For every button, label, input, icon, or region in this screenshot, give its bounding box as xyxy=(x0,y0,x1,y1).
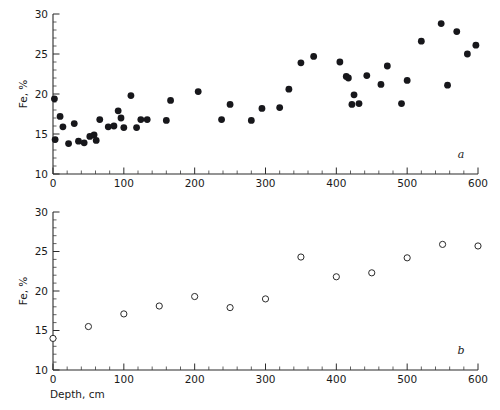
data-point xyxy=(133,124,140,131)
data-point xyxy=(137,116,144,123)
x-tick-label: 400 xyxy=(326,177,346,189)
y-tick-label: 10 xyxy=(35,168,48,180)
x-tick-label: 0 xyxy=(50,373,57,385)
scatter-plot-b: 01002003004005006001015202530Fe, %Depth,… xyxy=(0,196,500,406)
data-point xyxy=(93,137,100,144)
data-point xyxy=(298,59,305,66)
x-tick-label: 400 xyxy=(326,373,346,385)
data-point xyxy=(398,100,405,107)
data-point xyxy=(472,42,479,49)
data-point xyxy=(60,123,67,130)
data-point xyxy=(404,77,411,84)
y-tick-label: 20 xyxy=(35,88,48,100)
data-point xyxy=(453,28,460,35)
data-point xyxy=(120,124,127,131)
chart-panel-a: 01002003004005006001015202530Fe, %a xyxy=(0,0,500,200)
data-point xyxy=(378,81,385,88)
data-point xyxy=(115,107,122,114)
data-point xyxy=(195,88,202,95)
data-point xyxy=(310,53,317,60)
x-tick-label: 300 xyxy=(255,373,275,385)
data-point xyxy=(464,51,471,58)
x-tick-label: 500 xyxy=(397,177,417,189)
data-point xyxy=(345,75,352,82)
data-point xyxy=(351,91,358,98)
data-point xyxy=(444,82,451,89)
data-point xyxy=(118,115,125,122)
data-point xyxy=(71,120,78,127)
data-point xyxy=(298,254,304,260)
panel-label: b xyxy=(457,344,464,357)
x-tick-label: 600 xyxy=(468,177,488,189)
data-point xyxy=(65,140,72,147)
y-axis-title: Fe, % xyxy=(17,277,29,306)
x-axis-title: Depth, cm xyxy=(50,388,105,400)
scatter-plot-a: 01002003004005006001015202530Fe, %a xyxy=(0,0,500,200)
x-tick-label: 100 xyxy=(114,177,134,189)
y-tick-label: 25 xyxy=(35,245,48,257)
data-point xyxy=(52,136,59,143)
data-point xyxy=(248,117,255,124)
data-point xyxy=(50,335,56,341)
data-point xyxy=(121,311,127,317)
data-point xyxy=(276,104,283,111)
data-point xyxy=(81,139,88,146)
data-point xyxy=(369,270,375,276)
x-tick-label: 200 xyxy=(185,177,205,189)
chart-panel-b: 01002003004005006001015202530Fe, %Depth,… xyxy=(0,196,500,406)
y-tick-label: 10 xyxy=(35,364,48,376)
data-point xyxy=(404,255,410,261)
data-point xyxy=(333,274,339,280)
data-point xyxy=(349,101,356,108)
y-tick-label: 15 xyxy=(35,128,48,140)
data-point xyxy=(51,95,58,102)
y-tick-label: 15 xyxy=(35,324,48,336)
data-point xyxy=(167,97,174,104)
y-tick-label: 30 xyxy=(35,8,48,20)
figure-container: 01002003004005006001015202530Fe, %a 0100… xyxy=(0,0,500,410)
x-tick-label: 500 xyxy=(397,373,417,385)
data-point xyxy=(163,117,170,124)
data-point xyxy=(418,38,425,45)
data-point xyxy=(227,304,233,310)
y-tick-label: 25 xyxy=(35,48,48,60)
data-point xyxy=(192,293,198,299)
data-point xyxy=(57,113,64,120)
data-point xyxy=(438,20,445,27)
data-point xyxy=(259,105,266,112)
data-point xyxy=(356,100,363,107)
data-point xyxy=(128,92,135,99)
data-point xyxy=(227,101,234,108)
y-tick-label: 20 xyxy=(35,285,48,297)
x-tick-label: 300 xyxy=(255,177,275,189)
data-points xyxy=(51,20,479,147)
data-point xyxy=(144,116,151,123)
data-point xyxy=(96,116,103,123)
x-tick-label: 100 xyxy=(114,373,134,385)
data-point xyxy=(85,323,91,329)
x-tick-label: 200 xyxy=(185,373,205,385)
data-point xyxy=(363,72,370,79)
panel-label: a xyxy=(458,148,465,161)
data-point xyxy=(439,241,445,247)
data-point xyxy=(384,63,391,70)
data-point xyxy=(111,123,118,130)
y-tick-label: 30 xyxy=(35,206,48,218)
data-point xyxy=(262,296,268,302)
data-points xyxy=(50,241,481,341)
x-tick-label: 600 xyxy=(468,373,488,385)
data-point xyxy=(285,86,292,93)
x-tick-label: 0 xyxy=(50,177,57,189)
y-axis-title: Fe, % xyxy=(17,80,29,109)
data-point xyxy=(218,116,225,123)
data-point xyxy=(475,243,481,249)
data-point xyxy=(156,303,162,309)
data-point xyxy=(336,59,343,66)
